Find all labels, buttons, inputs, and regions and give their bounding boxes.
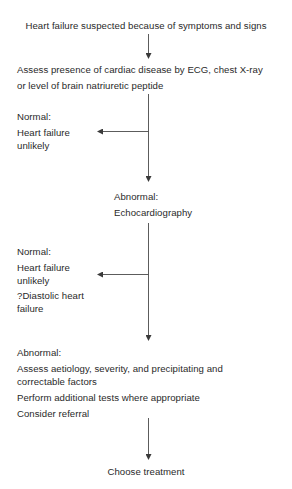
- abnormal2-line-1: Assess aetiology, severity, and precipit…: [17, 363, 223, 375]
- assess-line-1: Assess presence of cardiac disease by EC…: [17, 64, 263, 76]
- node-choose-treatment: Choose treatment: [0, 466, 292, 478]
- normal1-label: Normal:: [17, 111, 51, 123]
- abnormal2-line-2: correctable factors: [17, 376, 97, 388]
- abnormal1-label: Abnormal:: [114, 191, 158, 203]
- normal2-label: Normal:: [17, 246, 51, 258]
- abnormal1-text: Echocardiography: [114, 207, 192, 219]
- abnormal2-line-4: Consider referral: [17, 408, 89, 420]
- normal2-line-4: failure: [17, 303, 43, 315]
- node-heart-failure-suspected: Heart failure suspected because of sympt…: [0, 20, 292, 32]
- normal2-line-3: ?Diastolic heart: [17, 290, 84, 302]
- abnormal2-label: Abnormal:: [17, 347, 61, 359]
- abnormal2-line-3: Perform additional tests where appropria…: [17, 392, 200, 404]
- normal2-line-1: Heart failure: [17, 262, 70, 274]
- normal1-line-2: unlikely: [17, 140, 49, 152]
- assess-line-2: or level of brain natriuretic peptide: [17, 80, 163, 92]
- normal1-line-1: Heart failure: [17, 127, 70, 139]
- normal2-line-2: unlikely: [17, 275, 49, 287]
